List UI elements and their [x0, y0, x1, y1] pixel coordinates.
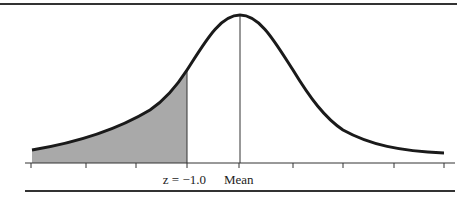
- normal-curve-figure: z = −1.0 Mean: [0, 0, 475, 201]
- shaded-left-tail: [32, 70, 187, 163]
- z-label: z = −1.0: [163, 172, 206, 187]
- normal-curve: [32, 15, 444, 153]
- axis-ticks: [31, 163, 444, 168]
- mean-label: Mean: [224, 172, 254, 187]
